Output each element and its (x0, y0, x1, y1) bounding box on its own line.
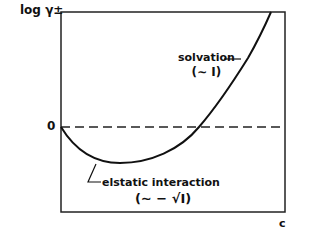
log-gamma-curve (61, 12, 271, 163)
solvation-annotation: solvation (∼ I) (178, 52, 235, 78)
elstatic-leader-line (88, 164, 101, 182)
elstatic-label: elstatic interaction (102, 177, 220, 189)
y-zero-tick-label: 0 (47, 120, 55, 132)
elstatic-sublabel: (∼ − √I) (135, 193, 191, 205)
y-axis-label: log γ± (20, 4, 63, 16)
solvation-sublabel: (∼ I) (178, 66, 235, 78)
solvation-label: solvation (178, 51, 235, 64)
x-axis-label: c (279, 218, 286, 230)
